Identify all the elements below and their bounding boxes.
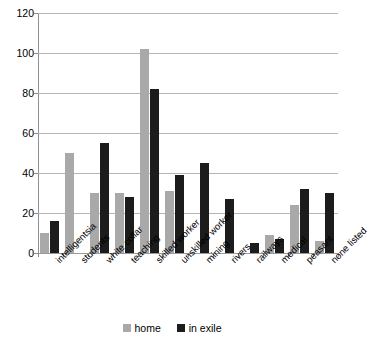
in-exile-swatch-icon — [177, 324, 185, 332]
bar-intelligentsia-in-exile — [50, 221, 59, 253]
bar-skilled-worker-home — [140, 49, 149, 253]
y-tick-label-80: 80 — [0, 88, 34, 98]
plot-area — [38, 13, 338, 253]
bar-group — [63, 13, 88, 253]
y-tick-label-120: 120 — [0, 8, 34, 18]
bar-group — [88, 13, 113, 253]
y-axis-labels: 020406080100120 — [0, 13, 34, 253]
bar-group — [263, 13, 288, 253]
bar-group — [313, 13, 338, 253]
bar-group — [38, 13, 63, 253]
legend-label: home — [135, 322, 161, 334]
legend-item-home[interactable]: home — [123, 322, 161, 334]
chart-legend: homein exile — [0, 322, 344, 334]
x-axis-labels: intelligentsiastudentswhite collarteachi… — [38, 258, 344, 316]
bar-group — [163, 13, 188, 253]
y-tick-label-0: 0 — [0, 248, 34, 258]
bar-group — [138, 13, 163, 253]
bar-group — [113, 13, 138, 253]
x-tick-0 — [38, 253, 39, 257]
legend-label: in exile — [189, 322, 222, 334]
bar-group — [288, 13, 313, 253]
y-tick-label-100: 100 — [0, 48, 34, 58]
bar-group — [238, 13, 263, 253]
bar-intelligentsia-home — [40, 233, 49, 253]
legend-item-in-exile[interactable]: in exile — [177, 322, 222, 334]
y-tick-label-40: 40 — [0, 168, 34, 178]
home-swatch-icon — [123, 324, 131, 332]
y-tick-label-60: 60 — [0, 128, 34, 138]
bar-skilled-worker-in-exile — [150, 89, 159, 253]
y-tick-label-20: 20 — [0, 208, 34, 218]
